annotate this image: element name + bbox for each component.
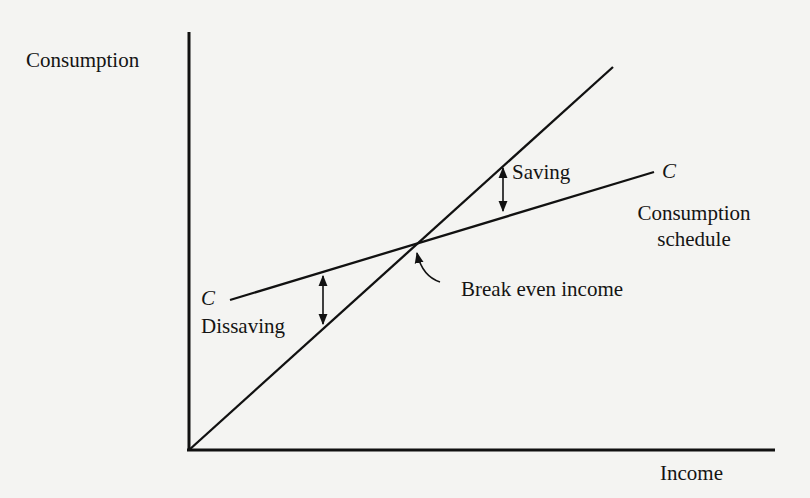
break-even-label: Break even income [461,279,623,300]
schedule-label: Consumption schedule [614,200,774,252]
schedule-label-line1: Consumption [614,200,774,226]
y-axis-label: Consumption [26,50,139,71]
c-left-label: C [201,288,215,309]
break-even-arrow [417,253,440,282]
dissaving-label: Dissaving [201,316,285,337]
forty-five-degree-line [189,67,613,450]
schedule-label-line2: schedule [614,226,774,252]
x-axis-label: Income [660,463,723,484]
c-right-label: C [662,161,676,182]
saving-label: Saving [512,162,570,183]
